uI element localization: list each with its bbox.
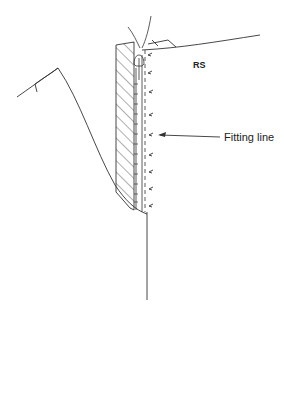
zipper-fitting-diagram: RS Fitting line [0, 0, 284, 394]
fitting-line-callout [158, 132, 220, 137]
facing-hatched [116, 42, 134, 210]
fitting-line-label: Fitting line [224, 131, 274, 143]
zipper [134, 55, 144, 212]
rs-label: RS [193, 60, 206, 70]
fitting-arrows [148, 53, 153, 207]
garment-panel-right [142, 35, 260, 50]
